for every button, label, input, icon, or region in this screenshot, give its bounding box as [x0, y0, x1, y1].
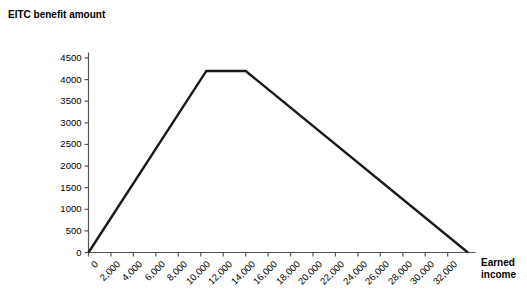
y-tick-label: 4000 — [38, 75, 82, 85]
y-tick-label: 3500 — [38, 96, 82, 106]
y-tick-label: 500 — [38, 226, 82, 236]
series-line — [89, 71, 468, 253]
y-tick-label: 2000 — [38, 161, 82, 171]
y-tick-label: 1500 — [38, 183, 82, 193]
y-tick-label: 3000 — [38, 118, 82, 128]
y-tick-label: 2500 — [38, 139, 82, 149]
eitc-benefit-chart: EITC benefit amount Earned income 050010… — [0, 0, 527, 300]
y-tick-label: 1000 — [38, 204, 82, 214]
y-tick-label: 4500 — [38, 53, 82, 63]
axis-lines — [89, 53, 476, 253]
y-tick-label: 0 — [38, 248, 82, 258]
data-series-group — [89, 71, 468, 253]
